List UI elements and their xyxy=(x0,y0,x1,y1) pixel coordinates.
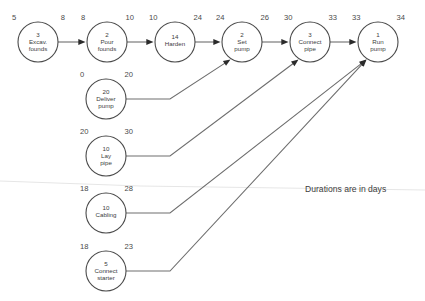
early-finish-deliver-pump: 20 xyxy=(125,70,133,79)
edge-connect-starter-to-run-pump xyxy=(126,60,367,272)
arrowhead-lay-pipe-to-connect-pipe xyxy=(291,60,298,67)
early-finish-pour-founds: 10 xyxy=(126,13,134,22)
arrowhead-harden-to-set-pump xyxy=(213,39,220,45)
node-label-line2-lay-pipe: pipe xyxy=(100,159,112,166)
arrowhead-excav-to-pour xyxy=(78,39,85,45)
edge-set-pump-to-connect-pipe xyxy=(262,39,289,45)
node-label-line2-set-pump: pump xyxy=(234,45,250,52)
edge-pour-to-harden xyxy=(127,39,154,45)
node-label-line1-cabling: Cabling xyxy=(96,211,118,218)
node-cabling[interactable]: 10Cabling1828 xyxy=(80,184,133,233)
edge-harden-to-set-pump xyxy=(195,39,221,45)
node-label-line2-connect-starter: starter xyxy=(97,274,115,281)
node-connect-pipe[interactable]: 3Connectpipe3033 xyxy=(284,13,337,62)
early-start-cabling: 18 xyxy=(80,184,88,193)
node-label-line2-run-pump: pump xyxy=(370,45,386,52)
node-label-line2-connect-pipe: pipe xyxy=(304,45,316,52)
node-label-line2-excav-founds: founds xyxy=(29,45,48,52)
early-start-set-pump: 24 xyxy=(216,13,224,22)
node-excav-founds[interactable]: 3Excav.founds58 xyxy=(12,13,65,62)
edge-connect-pipe-to-run-pump xyxy=(330,39,357,45)
caption-durations: Durations are in days xyxy=(305,184,386,194)
node-label-line2-deliver-pump: pump xyxy=(98,102,114,109)
arrowhead-set-pump-to-connect-pipe xyxy=(281,39,288,45)
early-finish-connect-pipe: 33 xyxy=(329,13,337,22)
node-run-pump[interactable]: 1Runpump3334 xyxy=(352,13,405,62)
arrowhead-pour-to-harden xyxy=(146,39,153,45)
node-connect-starter[interactable]: 5Connectstarter1823 xyxy=(80,242,133,291)
node-set-pump[interactable]: 2Setpump2426 xyxy=(216,13,269,62)
edge-deliver-pump-to-set-pump xyxy=(126,60,231,100)
node-harden[interactable]: 14Harden1024 xyxy=(149,13,202,62)
node-label-line2-pour-founds: founds xyxy=(98,45,117,52)
edge-lay-pipe-to-connect-pipe xyxy=(126,60,299,157)
early-finish-set-pump: 26 xyxy=(261,13,269,22)
early-finish-lay-pipe: 30 xyxy=(125,127,133,136)
network-diagram: 3Excav.founds582Pourfounds81014Harden102… xyxy=(0,0,425,301)
early-start-excav-founds: 5 xyxy=(12,13,16,22)
early-start-deliver-pump: 0 xyxy=(80,70,84,79)
node-layer: 3Excav.founds582Pourfounds81014Harden102… xyxy=(12,13,405,291)
early-finish-cabling: 28 xyxy=(125,184,133,193)
early-start-connect-pipe: 30 xyxy=(284,13,292,22)
early-finish-harden: 24 xyxy=(194,13,202,22)
arrowhead-deliver-pump-to-set-pump xyxy=(223,60,231,66)
node-lay-pipe[interactable]: 10Laypipe2030 xyxy=(80,127,133,176)
edge-excav-to-pour xyxy=(58,39,86,45)
node-pour-founds[interactable]: 2Pourfounds810 xyxy=(81,13,134,62)
node-deliver-pump[interactable]: 20Deliverpump020 xyxy=(80,70,133,119)
arrowhead-connect-pipe-to-run-pump xyxy=(349,39,356,45)
network-diagram-canvas: 3Excav.founds582Pourfounds81014Harden102… xyxy=(0,0,425,301)
early-start-pour-founds: 8 xyxy=(81,13,85,22)
early-start-connect-starter: 18 xyxy=(80,242,88,251)
early-start-lay-pipe: 20 xyxy=(80,127,88,136)
early-finish-run-pump: 34 xyxy=(397,13,405,22)
early-finish-connect-starter: 23 xyxy=(125,242,133,251)
node-label-line1-harden: Harden xyxy=(165,40,186,47)
early-start-run-pump: 33 xyxy=(352,13,360,22)
early-finish-excav-founds: 8 xyxy=(61,13,65,22)
early-start-harden: 10 xyxy=(149,13,157,22)
